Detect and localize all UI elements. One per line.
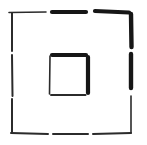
inner-left-edge xyxy=(50,56,51,94)
sketch-stage xyxy=(0,0,147,145)
outer-bottom-dash-1 xyxy=(11,133,48,134)
outer-left-dash-2 xyxy=(12,55,13,96)
outer-square-sketch xyxy=(9,11,132,134)
inner-square-sketch xyxy=(50,55,89,95)
outer-top-dash-3 xyxy=(95,11,129,13)
squares-sketch-drawing xyxy=(0,0,147,145)
outer-top-dash-1 xyxy=(9,12,46,13)
outer-right-dash-1 xyxy=(131,14,132,47)
outer-bottom-dash-3 xyxy=(93,133,131,134)
